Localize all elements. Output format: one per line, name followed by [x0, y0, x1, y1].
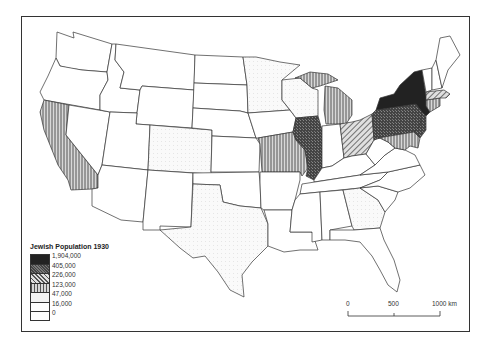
- legend-swatch: [30, 292, 50, 302]
- legend-item: 0: [30, 311, 109, 321]
- legend-swatch: [30, 311, 50, 321]
- state-massachusetts: [426, 90, 450, 100]
- legend-title: Jewish Population 1930: [30, 243, 109, 250]
- state-washington: [56, 32, 112, 72]
- legend: Jewish Population 1930 1,904,000 405,000…: [30, 243, 109, 321]
- legend-swatch: [30, 273, 50, 283]
- legend-swatch: [30, 283, 50, 293]
- scale-bar-line: [345, 311, 445, 321]
- legend-swatch: [30, 302, 50, 312]
- state-new-mexico: [143, 170, 193, 230]
- legend-swatch: [30, 264, 50, 274]
- state-kansas: [211, 136, 260, 172]
- legend-item: 16,000: [30, 302, 109, 312]
- state-wyoming: [136, 86, 194, 128]
- state-montana: [115, 44, 195, 90]
- state-florida: [330, 228, 400, 292]
- state-north-dakota: [194, 55, 247, 85]
- state-arizona: [92, 165, 148, 222]
- legend-swatch: [30, 254, 50, 264]
- state-michigan-lower: [324, 86, 352, 124]
- state-colorado: [148, 125, 212, 174]
